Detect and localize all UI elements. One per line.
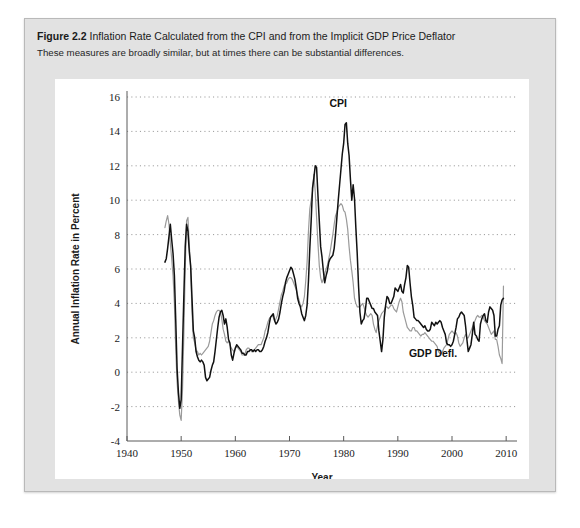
x-axis-ticks: 19401950196019701980199020002010	[116, 436, 518, 459]
y-tick-label: 12	[109, 160, 120, 172]
y-tick-label: 16	[109, 91, 121, 103]
y-tick-label: 8	[115, 229, 121, 241]
series-line-gdp-defl	[165, 174, 504, 420]
x-tick-label: 1970	[279, 447, 302, 459]
y-tick-label: 14	[109, 125, 121, 137]
y-tick-label: 0	[115, 366, 121, 378]
x-tick-label: 1940	[116, 447, 139, 459]
x-tick-label: 2010	[495, 447, 517, 459]
chart-plot-panel: -4-20246810121416 1940195019601970198019…	[55, 79, 529, 479]
inflation-line-chart: -4-20246810121416 1940195019601970198019…	[55, 79, 529, 479]
figure-card: Figure 2.2 Inflation Rate Calculated fro…	[24, 18, 556, 492]
y-tick-label: -2	[111, 401, 120, 413]
y-axis-title: Annual Inflation Rate in Percent	[70, 193, 81, 345]
data-series-group	[165, 123, 504, 421]
y-tick-label: 4	[115, 297, 121, 309]
figure-caption-title: Figure 2.2 Inflation Rate Calculated fro…	[37, 29, 543, 43]
x-tick-label: 1980	[333, 447, 356, 459]
y-tick-label: 6	[115, 263, 121, 275]
y-axis-ticks: -4-20246810121416	[109, 91, 121, 447]
figure-number: Figure 2.2	[37, 30, 87, 42]
x-tick-label: 1950	[170, 447, 193, 459]
caption-block: Figure 2.2 Inflation Rate Calculated fro…	[37, 29, 543, 59]
figure-page: Figure 2.2 Inflation Rate Calculated fro…	[0, 0, 580, 528]
x-tick-label: 1960	[224, 447, 247, 459]
y-tick-label: 2	[115, 332, 121, 344]
series-annotations: CPIGDP Defl.	[329, 97, 457, 358]
annotation-gdp-defl: GDP Defl.	[409, 347, 457, 359]
x-tick-label: 2000	[441, 447, 464, 459]
figure-title-text: Inflation Rate Calculated from the CPI a…	[90, 30, 456, 42]
annotation-cpi: CPI	[329, 97, 347, 109]
x-axis-title: Year	[311, 472, 332, 479]
y-tick-label: 10	[109, 194, 121, 206]
y-tick-label: -4	[111, 435, 121, 447]
figure-caption-subtitle: These measures are broadly similar, but …	[37, 46, 543, 59]
x-tick-label: 1990	[387, 447, 410, 459]
